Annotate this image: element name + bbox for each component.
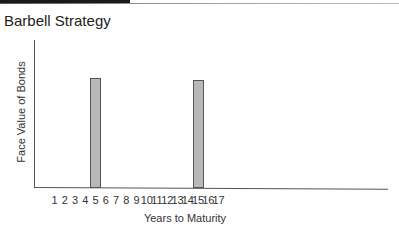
x-tick-label: 7 <box>113 194 119 206</box>
chart-title: Barbell Strategy <box>4 12 111 29</box>
x-tick-label: 17 <box>212 194 224 206</box>
x-tick-label: 4 <box>82 194 88 206</box>
bar-year-5 <box>90 78 101 188</box>
x-axis-line <box>34 187 388 190</box>
x-tick-label: 1 <box>51 194 57 206</box>
x-tick-label: 2 <box>62 194 68 206</box>
x-axis-label: Years to Maturity <box>144 212 226 224</box>
bar-year-15 <box>193 80 204 188</box>
header-rule-thin <box>0 3 399 4</box>
x-tick-label: 8 <box>123 194 129 206</box>
x-tick-label: 6 <box>103 194 109 206</box>
y-axis-label: Face Value of Bonds <box>15 61 27 162</box>
y-axis-line <box>34 40 35 188</box>
x-tick-label: 3 <box>72 194 78 206</box>
x-tick-label: 9 <box>133 194 139 206</box>
x-tick-label: 5 <box>92 194 98 206</box>
